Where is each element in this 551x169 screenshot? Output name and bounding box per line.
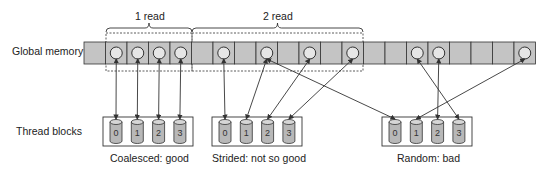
memory-cell [450, 42, 472, 64]
memory-cell [385, 42, 407, 64]
read-braces [106, 23, 363, 32]
thread-id: 3 [456, 128, 461, 138]
thread-id: 3 [286, 128, 291, 138]
thread-id: 2 [435, 128, 440, 138]
access-arrow [224, 59, 225, 119]
access-arrows [116, 59, 525, 119]
access-arrow [289, 59, 353, 119]
thread-id: 3 [177, 128, 182, 138]
memory-cell [278, 42, 300, 64]
global-memory-bar [84, 42, 536, 64]
thread-id: 2 [265, 128, 270, 138]
thread-id: 0 [113, 128, 118, 138]
access-arrow [267, 59, 395, 119]
memory-cell [192, 42, 214, 64]
brace-icon [106, 23, 192, 32]
memory-cell [84, 42, 106, 64]
access-arrow [246, 59, 266, 119]
memory-value-circle [132, 47, 144, 59]
memory-value-circle [433, 47, 445, 59]
memory-value-circle [175, 47, 187, 59]
memory-cell [321, 42, 343, 64]
thread-id: 2 [156, 128, 161, 138]
thread-id: 0 [392, 128, 397, 138]
access-arrow [416, 59, 524, 119]
memory-value-circle [304, 47, 316, 59]
thread-id: 1 [244, 128, 249, 138]
brace-icon [192, 23, 363, 32]
memory-value-circle [411, 47, 423, 59]
memory-cell [493, 42, 515, 64]
memory-value-circle [218, 47, 230, 59]
memory-value-circle [519, 47, 531, 59]
thread-id: 1 [135, 128, 140, 138]
memory-cell [364, 42, 386, 64]
memory-value-circle [153, 47, 165, 59]
memory-cell [471, 42, 493, 64]
memory-access-diagram: 012301230123 [0, 0, 551, 169]
thread-id: 0 [222, 128, 227, 138]
thread-id: 1 [414, 128, 419, 138]
access-arrow [268, 59, 310, 119]
memory-value-circle [110, 47, 122, 59]
access-arrow [159, 59, 160, 119]
memory-cell [235, 42, 257, 64]
memory-value-circle [261, 47, 273, 59]
memory-value-circle [347, 47, 359, 59]
access-arrow [180, 59, 181, 119]
thread-blocks: 012301230123 [103, 117, 472, 146]
